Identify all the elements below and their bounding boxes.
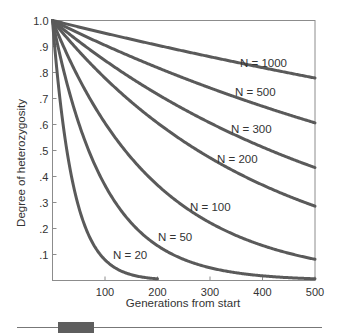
y-tick-label: .7 (39, 93, 48, 105)
curve-label: N = 100 (190, 201, 231, 213)
y-tick-label: .2 (39, 223, 48, 235)
y-tick-label: .3 (39, 197, 48, 209)
footer-rule (17, 322, 322, 333)
y-tick-label: .1 (39, 249, 48, 261)
curve-label: N = 300 (231, 123, 272, 135)
y-tick-label: 1.0 (33, 15, 48, 27)
y-tick-label: .4 (39, 171, 48, 183)
curve-label: N = 500 (235, 86, 276, 98)
y-tick-label: .9 (39, 41, 48, 53)
y-axis-ticks: .1.2.3.4.5.6.7.8.91.0 (33, 15, 56, 261)
y-tick-label: .8 (39, 67, 48, 79)
footer-block (58, 322, 94, 333)
y-tick-label: .5 (39, 145, 48, 157)
curve-label: N = 20 (113, 249, 147, 261)
x-tick-label: 300 (201, 286, 219, 298)
x-tick-label: 100 (96, 286, 114, 298)
curve-label: N = 1000 (240, 57, 287, 69)
x-tick-label: 400 (253, 286, 271, 298)
x-tick-label: 200 (148, 286, 166, 298)
curve-n-200 (53, 21, 316, 207)
curve-label: N = 50 (158, 231, 192, 243)
x-axis-ticks: 100200300400500 (96, 277, 324, 298)
y-tick-label: .6 (39, 119, 48, 131)
y-axis-label: Degree of heterozygosity (15, 99, 27, 227)
x-tick-label: 500 (306, 286, 324, 298)
heterozygosity-chart: Degree of heterozygosity .1.2.3.4.5.6.7.… (0, 0, 337, 333)
y-axis-title: Degree of heterozygosity (15, 99, 27, 227)
curve-n-300 (53, 21, 316, 168)
x-axis-label: Generations from start (126, 297, 241, 309)
curve-label: N = 200 (217, 153, 258, 165)
